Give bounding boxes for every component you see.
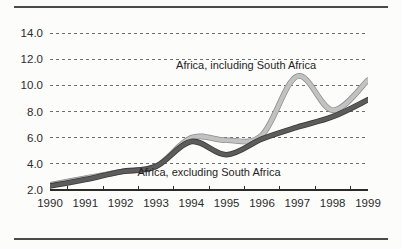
x-axis-tick-label: 1993 (143, 197, 169, 209)
x-axis-tick-label: 1990 (37, 197, 63, 209)
series-annotation: Africa, including South Africa (176, 59, 317, 71)
figure-container: 14.012.010.08.06.04.02.0 199019911992199… (0, 0, 402, 249)
x-axis-tick-label: 1998 (320, 197, 346, 209)
y-axis-tick-label: 2.0 (27, 184, 43, 196)
line-chart-svg: 14.012.010.08.06.04.02.0 199019911992199… (0, 14, 402, 234)
y-axis-tick-label: 14.0 (21, 27, 43, 39)
x-axis-tick-label: 1997 (285, 197, 311, 209)
y-axis-tick-label: 8.0 (27, 106, 43, 118)
x-axis-tick-label: 1992 (108, 197, 134, 209)
chart-plot-area: 14.012.010.08.06.04.02.0 199019911992199… (0, 14, 402, 234)
series-annotation: Africa, excluding South Africa (137, 166, 281, 178)
x-axis-tick-label: 1999 (355, 197, 381, 209)
y-axis-labels-group: 14.012.010.08.06.04.02.0 (21, 27, 43, 196)
x-axis-tick-label: 1994 (179, 197, 205, 209)
y-axis-tick-label: 10.0 (21, 79, 43, 91)
y-axis-tick-label: 4.0 (27, 158, 43, 170)
y-axis-tick-label: 6.0 (27, 132, 43, 144)
y-axis-tick-label: 12.0 (21, 53, 43, 65)
bottom-horizontal-rule (14, 238, 388, 240)
x-axis-tick-label: 1991 (73, 197, 99, 209)
x-axis-tick-label: 1995 (214, 197, 240, 209)
top-horizontal-rule (14, 6, 388, 8)
x-axis-tick-label: 1996 (249, 197, 275, 209)
x-axis-labels-group: 1990199119921993199419951996199719981999 (37, 197, 381, 209)
